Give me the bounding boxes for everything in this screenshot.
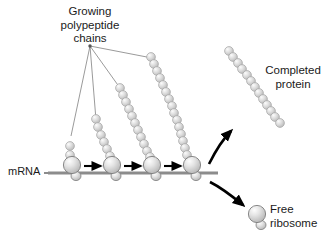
polypeptide-chain-4	[147, 53, 192, 160]
leader-line-2	[90, 46, 96, 120]
ribosome-1	[63, 156, 81, 180]
arrow-to-free-ribosome	[210, 182, 243, 205]
completed-protein-label: Completed protein	[258, 64, 328, 91]
ribosome-2	[103, 156, 121, 180]
free-ribosome-label: Free ribosome	[270, 203, 317, 230]
leader-line-3	[90, 46, 120, 88]
ribosome-3	[143, 156, 161, 180]
leader-line-1	[71, 46, 90, 136]
polypeptide-chain-2	[92, 115, 115, 161]
leader-lines-group	[71, 44, 152, 136]
arrow-to-completed-protein	[209, 131, 231, 164]
ribosome-4	[183, 156, 201, 180]
figure-canvas: Growing polypeptide chains mRNA Complete…	[0, 0, 330, 240]
growing-polypeptide-chains-label: Growing polypeptide chains	[34, 5, 146, 46]
free-ribosome	[248, 205, 266, 229]
leader-line-4	[90, 46, 152, 58]
mrna-label: mRNA	[8, 165, 40, 178]
polypeptide-chain-3	[116, 84, 155, 162]
